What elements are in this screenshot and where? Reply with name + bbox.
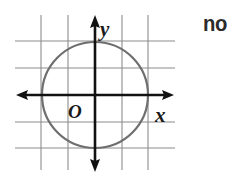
graph-figure: y x O	[0, 0, 190, 181]
screenshot-root: y x O no	[0, 0, 242, 181]
origin-label: O	[68, 101, 82, 122]
coordinate-plane-svg: y x O	[0, 0, 190, 181]
x-axis-label: x	[154, 103, 166, 127]
answer-label: no	[203, 13, 227, 35]
y-axis-label: y	[97, 17, 110, 41]
